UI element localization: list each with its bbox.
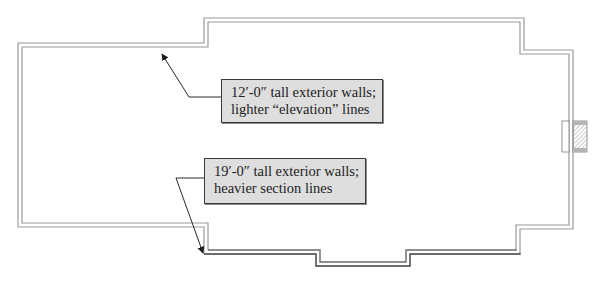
callout-light-walls-line1: 12′-0″ tall exterior walls; [231, 84, 375, 101]
callout-heavy-walls-line2: heavier section lines [214, 180, 358, 197]
exterior-wall-inner [22, 22, 569, 250]
callout-heavy-walls-line1: 19′-0″ tall exterior walls; [214, 163, 358, 180]
leader-line-heavy-walls [176, 178, 204, 253]
chimney-detail [562, 121, 587, 152]
callout-light-walls: 12′-0″ tall exterior walls; lighter “ele… [221, 79, 383, 123]
callout-heavy-walls: 19′-0″ tall exterior walls; heavier sect… [204, 158, 366, 204]
heavy-section-walls [204, 249, 520, 266]
callout-light-walls-line2: lighter “elevation” lines [231, 101, 375, 118]
floor-plan-diagram [0, 0, 604, 282]
exterior-wall-outer [18, 18, 573, 254]
leader-line-light-walls [162, 54, 221, 97]
